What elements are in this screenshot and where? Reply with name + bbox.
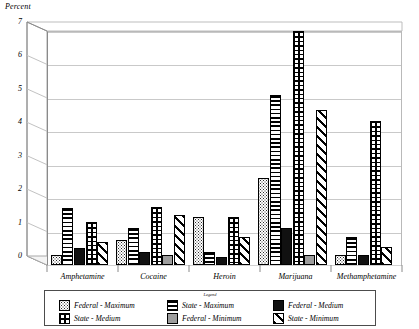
- bar: [239, 237, 250, 265]
- bar: [204, 252, 215, 265]
- bar: [162, 255, 173, 265]
- bar: [139, 252, 150, 265]
- bar: [86, 222, 97, 265]
- bar: [270, 95, 281, 265]
- bar: [74, 248, 85, 265]
- bar: [346, 237, 357, 265]
- y-axis-tick: 3: [4, 151, 22, 160]
- legend-item-label: Federal - Maximum: [74, 301, 135, 310]
- bar: [174, 215, 185, 265]
- legend-item-label: State - Maximum: [182, 301, 234, 310]
- legend-swatch-icon: [167, 313, 178, 324]
- bar: [281, 228, 292, 265]
- legend: Legend Federal - MaximumState - MaximumF…: [44, 290, 376, 326]
- legend-item-label: State - Minimum: [288, 314, 339, 323]
- bar: [62, 208, 73, 265]
- bar: [151, 207, 162, 266]
- legend-swatch-icon: [59, 300, 70, 311]
- bar: [97, 242, 108, 265]
- bar: [258, 178, 269, 265]
- legend-swatch-icon: [273, 313, 284, 324]
- y-axis-tick: 7: [4, 17, 22, 26]
- bar: [358, 255, 369, 265]
- bar-groups: [47, 31, 402, 265]
- y-axis-tick: 0: [4, 251, 22, 260]
- bar: [335, 255, 346, 265]
- legend-item: Federal - Maximum: [59, 300, 135, 311]
- bar: [316, 110, 327, 265]
- bar: [228, 217, 239, 265]
- x-axis-label: Methamphetamine: [316, 272, 417, 281]
- legend-item: Federal - Medium: [273, 300, 343, 311]
- y-axis-tick: 2: [4, 184, 22, 193]
- bar: [116, 240, 127, 265]
- bar: [193, 217, 204, 265]
- legend-item: Federal - Minimum: [167, 313, 241, 324]
- bar: [293, 31, 304, 265]
- legend-item-label: State - Medium: [74, 314, 120, 323]
- y-axis-tick: 4: [4, 117, 22, 126]
- legend-item: State - Maximum: [167, 300, 234, 311]
- chart-root: Percent 76543210 AmphetamineCocaineHeroi…: [0, 0, 419, 329]
- legend-item: State - Medium: [59, 313, 120, 324]
- legend-title: Legend: [45, 292, 375, 297]
- bar: [216, 257, 227, 265]
- legend-swatch-icon: [59, 313, 70, 324]
- bar: [381, 247, 392, 265]
- y-axis-title: Percent: [5, 2, 31, 11]
- bar: [304, 255, 315, 265]
- bar: [51, 255, 62, 265]
- legend-item-label: Federal - Minimum: [182, 314, 241, 323]
- y-axis-tick: 6: [4, 50, 22, 59]
- bar: [128, 228, 139, 265]
- legend-item-label: Federal - Medium: [288, 301, 343, 310]
- legend-swatch-icon: [273, 300, 284, 311]
- legend-swatch-icon: [167, 300, 178, 311]
- legend-item: State - Minimum: [273, 313, 339, 324]
- y-axis-tick: 1: [4, 218, 22, 227]
- bar: [370, 121, 381, 265]
- y-axis-tick: 5: [4, 84, 22, 93]
